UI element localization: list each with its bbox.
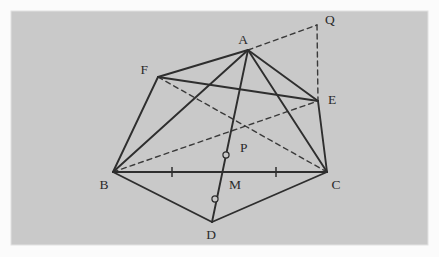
marker-MD-segment	[212, 196, 218, 202]
geometry-canvas: ABCDEFPMQ	[0, 0, 439, 257]
diagram-panel	[11, 11, 428, 245]
vertex-label-M: M	[229, 177, 241, 192]
vertex-label-E: E	[328, 92, 336, 107]
vertex-label-P: P	[240, 140, 248, 155]
vertex-label-B: B	[99, 177, 108, 192]
vertex-label-C: C	[331, 177, 340, 192]
marker-PM-segment	[223, 152, 229, 158]
vertex-label-A: A	[238, 32, 248, 47]
vertex-label-F: F	[140, 62, 148, 77]
vertex-label-D: D	[206, 227, 216, 242]
edge-Q-E	[317, 25, 318, 101]
geometry-figure: ABCDEFPMQ	[0, 0, 439, 257]
vertex-label-Q: Q	[325, 12, 335, 27]
